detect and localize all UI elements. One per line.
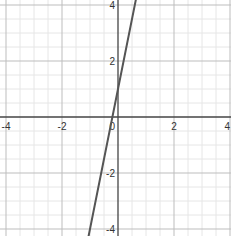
y-tick-label: 4 [109,0,115,11]
x-tick-label: 4 [224,121,230,132]
minor-grid [0,0,231,236]
y-tick-label: 2 [109,56,115,67]
x-tick-label: -2 [58,121,67,132]
y-tick-label: -4 [106,224,115,235]
x-tick-label: 2 [171,121,177,132]
function-graph: -4-2024-4-224 [0,0,231,236]
x-tick-label: -4 [2,121,11,132]
y-tick-label: -2 [106,168,115,179]
